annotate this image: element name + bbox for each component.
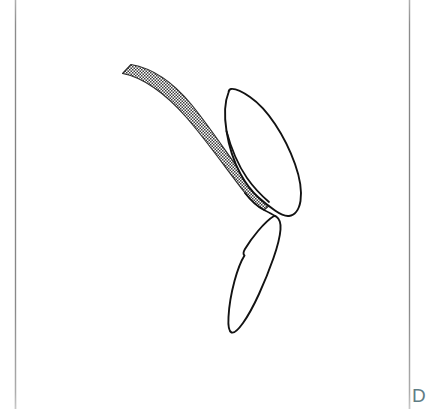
lower-lobe-shape xyxy=(228,216,280,333)
figure-drawing xyxy=(0,0,431,409)
figure-caption-letter: D xyxy=(412,386,426,405)
scanned-figure-page: D xyxy=(0,0,431,409)
